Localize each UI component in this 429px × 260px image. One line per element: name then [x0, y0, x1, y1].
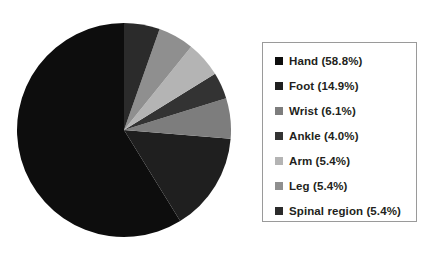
legend-item-label: Arm (5.4%): [289, 155, 350, 167]
legend-item: Foot (14.9%): [275, 73, 412, 98]
legend-marker-hand: [275, 57, 283, 65]
legend-marker-foot: [275, 82, 283, 90]
legend-item-list: Hand (58.8%)Foot (14.9%)Wrist (6.1%)Ankl…: [275, 48, 412, 223]
legend-marker-arm: [275, 157, 283, 165]
legend-item-label: Hand (58.8%): [289, 55, 362, 67]
legend-item: Arm (5.4%): [275, 148, 412, 173]
legend-item: Leg (5.4%): [275, 173, 412, 198]
legend-item: Ankle (4.0%): [275, 123, 412, 148]
pie-slice-group: Hand (58.8%)Foot (14.9%)Wrist (6.1%)Ankl…: [17, 23, 231, 237]
pie-plot-area: Hand (58.8%)Foot (14.9%)Wrist (6.1%)Ankl…: [16, 16, 232, 245]
legend-item-label: Ankle (4.0%): [289, 130, 359, 142]
legend-marker-leg: [275, 182, 283, 190]
chart-legend: Hand (58.8%)Foot (14.9%)Wrist (6.1%)Ankl…: [262, 42, 417, 222]
pie-svg: Hand (58.8%)Foot (14.9%)Wrist (6.1%)Ankl…: [16, 16, 232, 245]
legend-item-label: Foot (14.9%): [289, 80, 359, 92]
legend-item: Wrist (6.1%): [275, 98, 412, 123]
legend-item-label: Leg (5.4%): [289, 180, 348, 192]
legend-marker-wrist: [275, 107, 283, 115]
legend-marker-ankle: [275, 132, 283, 140]
legend-item: Spinal region (5.4%): [275, 198, 412, 223]
legend-item-label: Spinal region (5.4%): [289, 205, 401, 217]
pie-chart-figure: Hand (58.8%)Foot (14.9%)Wrist (6.1%)Ankl…: [0, 0, 429, 260]
legend-marker-spinal-region: [275, 207, 283, 215]
legend-item: Hand (58.8%): [275, 48, 412, 73]
legend-item-label: Wrist (6.1%): [289, 105, 356, 117]
